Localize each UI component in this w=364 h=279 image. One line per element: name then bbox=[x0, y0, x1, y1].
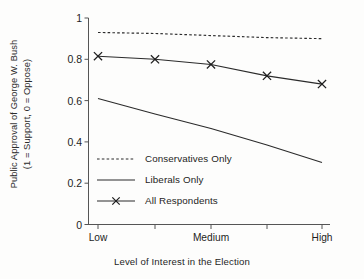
legend-item: Conservatives Only bbox=[96, 148, 232, 169]
series-conservatives-only bbox=[98, 32, 322, 38]
x-tick-label: High bbox=[312, 232, 333, 243]
x-axis-tick-marks bbox=[98, 225, 322, 230]
legend-label: Conservatives Only bbox=[145, 153, 232, 164]
plot-area bbox=[0, 0, 364, 279]
x-tick-label: Low bbox=[89, 232, 108, 243]
x-axis-title: Level of Interest in the Election bbox=[0, 256, 364, 267]
legend-item: Liberals Only bbox=[96, 169, 232, 190]
legend-item: All Respondents bbox=[96, 190, 232, 211]
series-all-respondents bbox=[94, 52, 326, 88]
dashed-line-key bbox=[96, 152, 136, 166]
series-line bbox=[98, 32, 322, 38]
chart-legend: Conservatives Only Liberals Only All Res… bbox=[96, 148, 232, 211]
data-series-layer bbox=[94, 32, 326, 162]
chart-figure: Public Approval of George W. Bush (1 = S… bbox=[0, 0, 364, 279]
solid-line-key bbox=[96, 173, 136, 187]
legend-label: All Respondents bbox=[145, 195, 218, 206]
x-tick-label: Medium bbox=[193, 232, 229, 243]
legend-label: Liberals Only bbox=[145, 174, 203, 185]
series-line bbox=[98, 56, 322, 84]
marker-line-key bbox=[96, 194, 136, 208]
y-axis-tick-marks bbox=[85, 18, 89, 225]
